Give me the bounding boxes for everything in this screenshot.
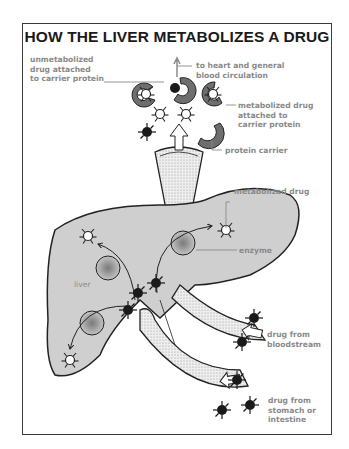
label-liver: liver (74, 280, 91, 290)
label-enzyme: enzyme (239, 246, 272, 256)
label-drug-from-stomach: drug from stomach or intestine (268, 396, 316, 425)
label-metabolized-attached: metabolized drug attached to carrier pro… (238, 101, 313, 130)
circulation-arrow-icon (174, 58, 180, 77)
label-to-heart: to heart and general blood circulation (196, 61, 284, 80)
metabolized-drug-icon (178, 107, 195, 122)
label-unmetabolized-drug: unmetabolized drug attached to carrier p… (30, 55, 104, 84)
label-drug-from-bloodstream: drug from bloodstream (267, 330, 321, 349)
up-arrow-icon (170, 124, 188, 150)
label-metabolized-drug: metabolized drug (234, 187, 309, 197)
drug-molecule-icon (138, 123, 156, 141)
drug-molecule-icon (213, 401, 231, 419)
metabolized-drug-icon (152, 107, 169, 122)
label-protein-carrier: protein carrier (225, 146, 287, 156)
drug-molecule-icon (245, 309, 263, 327)
drug-molecule-icon (241, 396, 259, 414)
